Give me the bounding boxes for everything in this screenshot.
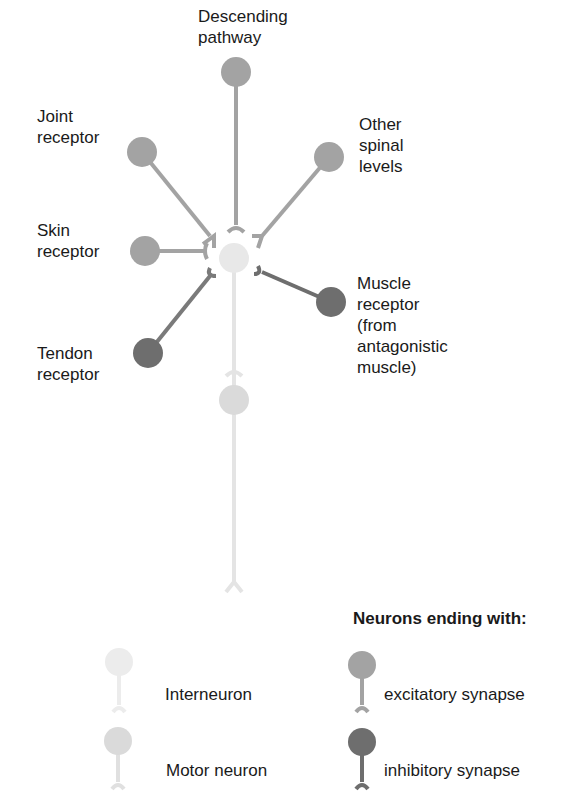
other-spinal-neuron (314, 142, 344, 172)
label-other-spinal-levels: Other spinal levels (359, 114, 403, 177)
legend-label-excitatory: excitatory synapse (384, 684, 525, 705)
legend-excitatory-icon (348, 651, 376, 712)
label-tendon-receptor: Tendon receptor (37, 343, 99, 385)
joint-receptor-neuron (127, 137, 157, 167)
legend-label-interneuron: Interneuron (165, 684, 252, 705)
tendon-receptor-neuron (133, 338, 163, 368)
legend-title: Neurons ending with: (353, 609, 527, 629)
legend-label-motor-neuron: Motor neuron (166, 760, 267, 781)
legend-label-inhibitory: inhibitory synapse (384, 760, 520, 781)
tendon-synapse (209, 268, 216, 276)
legend-inhibitory-icon (348, 728, 376, 789)
motor-neuron-body (219, 385, 249, 415)
descending-pathway-neuron (221, 57, 251, 87)
label-skin-receptor: Skin receptor (37, 220, 99, 262)
label-joint-receptor: Joint receptor (37, 106, 99, 148)
skin-synapse (205, 243, 207, 259)
descending-synapse (228, 228, 244, 232)
skin-receptor-neuron (130, 236, 160, 266)
muscle-synapse (254, 266, 259, 274)
label-descending-pathway: Descending pathway (198, 6, 288, 48)
muscle-receptor-neuron (316, 287, 346, 317)
legend-motor-icon (104, 727, 132, 789)
interneuron-terminal (226, 582, 242, 592)
label-muscle-receptor: Muscle receptor (from antagonistic muscl… (357, 273, 448, 378)
interneuron-body (219, 243, 249, 273)
other-synapse (252, 236, 262, 248)
legend-interneuron-icon (105, 648, 133, 712)
